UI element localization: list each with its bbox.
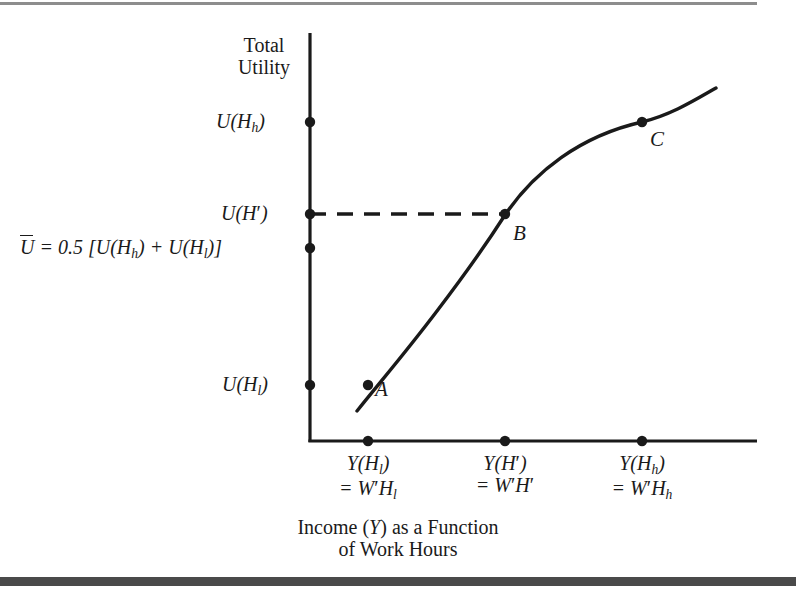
y-tick-marker-u-hh [305, 117, 315, 127]
figure-caption: Income (Y) as a Function of Work Hours [0, 516, 796, 561]
u-hh-tail: ) [258, 110, 265, 132]
x3-l1-head: Y(H [619, 452, 651, 474]
y-tick-marker-u-bar [305, 243, 315, 253]
x-tick-label-y-hl: Y(Hl) = W′Hl [298, 452, 438, 502]
y-tick-marker-u-hprime [305, 209, 315, 219]
x3-l2-head: = W [612, 477, 647, 499]
point-label-a: A [375, 378, 388, 402]
u-bar-plus: ) + U(H [138, 236, 204, 258]
data-point-a [363, 380, 373, 390]
x-tick-label-y-hl-line-2: = W′Hl [298, 477, 438, 502]
x2-l2-prime2: ′ [530, 474, 534, 496]
x-tick-marker-y-hh [637, 436, 647, 446]
u-hprime-tail: ) [261, 202, 268, 224]
y-axis-title: Total Utility [228, 34, 300, 79]
x-tick-label-y-hprime: Y(H′) = W′H′ [435, 452, 575, 497]
x3-l1-tail: ) [658, 452, 665, 474]
x-tick-label-y-hh: Y(Hh) = W′Hh [572, 452, 712, 502]
point-label-b: B [513, 222, 526, 246]
y-tick-marker-u-hl [305, 380, 315, 390]
figure-root: Total Utility U(Hh) U(H′) U = 0.5 [U(Hh)… [0, 0, 796, 590]
y-tick-label-u-hprime: U(H′) [221, 202, 268, 224]
y-axis-title-line-1: Total [228, 34, 300, 56]
x-tick-label-y-hh-line-1: Y(Hh) [572, 452, 712, 477]
u-bar-mid: = 0.5 [U(H [34, 236, 131, 258]
x3-l2-mid: H [651, 477, 665, 499]
x1-l1-head: Y(H [347, 452, 379, 474]
data-point-c [637, 117, 647, 127]
x-tick-label-y-hh-line-2: = W′Hh [572, 477, 712, 502]
y-tick-label-u-hh: U(Hh) [216, 110, 265, 135]
x1-l2-mid: H [379, 477, 393, 499]
data-point-b [500, 209, 510, 219]
x1-l2-sub: l [393, 487, 397, 502]
x2-l1-head: Y(H [483, 452, 515, 474]
x-tick-label-y-hl-line-1: Y(Hl) [298, 452, 438, 477]
u-hh-head: U(H [216, 110, 252, 132]
y-axis-title-line-2: Utility [228, 56, 300, 78]
x2-l1-tail: ) [520, 452, 527, 474]
x3-l2-sub: h [666, 487, 673, 502]
y-tick-label-u-bar: U = 0.5 [U(Hh) + U(Hl)] [20, 236, 222, 261]
x2-l2-head: = W [476, 474, 511, 496]
u-hl-head: U(H [222, 373, 258, 395]
y-tick-label-u-hl: U(Hl) [222, 373, 268, 398]
x1-l2-head: = W [339, 477, 374, 499]
u-bar-head: U [20, 236, 34, 258]
caption-tail: ) as a Function [380, 516, 498, 538]
x-tick-label-y-hprime-line-1: Y(H′) [435, 452, 575, 474]
caption-variable: Y [369, 516, 380, 538]
point-label-c: C [650, 128, 664, 152]
x1-l1-tail: ) [383, 452, 390, 474]
u-bar-tail: )] [208, 236, 222, 258]
x-tick-marker-y-hprime [500, 436, 510, 446]
figure-caption-line-2: of Work Hours [0, 538, 796, 560]
u-hl-tail: ) [261, 373, 268, 395]
figure-caption-line-1: Income (Y) as a Function [0, 516, 796, 538]
u-hprime-head: U(H [221, 202, 257, 224]
x2-l2-mid: H [515, 474, 529, 496]
caption-head: Income ( [297, 516, 369, 538]
x-tick-label-y-hprime-line-2: = W′H′ [435, 474, 575, 496]
x-tick-marker-y-hl [363, 436, 373, 446]
